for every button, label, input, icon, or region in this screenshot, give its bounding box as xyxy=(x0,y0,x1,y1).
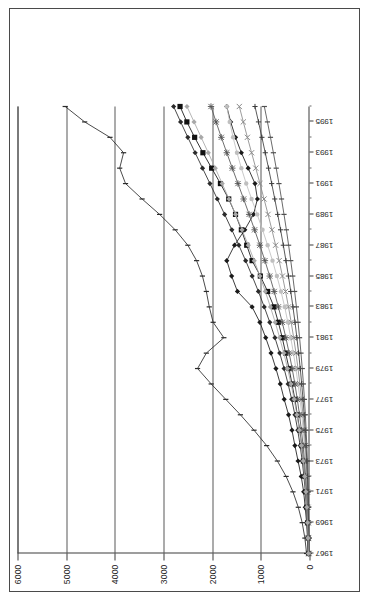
series-textiles xyxy=(224,104,310,555)
y-axis-tick xyxy=(163,553,164,560)
marker-square-filled xyxy=(200,150,205,155)
marker-dot-light xyxy=(270,258,274,262)
y-axis-label: 2000 xyxy=(207,564,217,584)
marker-dot-light xyxy=(230,135,234,139)
series-line xyxy=(211,106,309,553)
y-axis-label: 1000 xyxy=(255,564,265,584)
marker-dot-light xyxy=(260,227,264,231)
marker-plus xyxy=(285,273,290,278)
x-axis-tick xyxy=(309,120,313,121)
marker-dot-light xyxy=(244,181,248,185)
marker-diamond-filled xyxy=(243,258,248,263)
x-axis-label: 1981 xyxy=(315,333,333,342)
y-axis-tick xyxy=(66,553,67,560)
marker-plus xyxy=(269,180,274,185)
marker-plus xyxy=(280,242,285,247)
series-energy xyxy=(261,106,311,553)
x-axis-label: 1989 xyxy=(315,209,333,218)
marker-star xyxy=(240,195,246,201)
x-axis-tick xyxy=(309,429,313,430)
x-axis-tick xyxy=(309,367,313,368)
chart-figure: CONST. PROD.BASIC METALSTEXTILESWOOD PAP… xyxy=(0,0,370,601)
marker-diamond-filled xyxy=(252,180,257,185)
marker-diamond-light xyxy=(191,119,196,124)
x-axis-label: 1977 xyxy=(315,394,333,403)
marker-diamond-filled xyxy=(222,211,227,216)
marker-dot-light xyxy=(234,150,238,154)
x-axis-tick xyxy=(309,213,313,214)
x-axis-tick xyxy=(309,275,313,276)
x-axis-label: 1995 xyxy=(315,117,333,126)
x-axis-tick xyxy=(309,305,313,306)
series-line xyxy=(264,106,309,553)
x-axis-tick xyxy=(309,336,313,337)
marker-diamond-filled xyxy=(214,196,219,201)
x-axis-label: 1985 xyxy=(315,271,333,280)
x-axis-label: 1993 xyxy=(315,148,333,157)
series-line xyxy=(173,106,308,553)
marker-star xyxy=(234,180,240,186)
x-axis-label: 1991 xyxy=(315,179,333,188)
marker-dot-light xyxy=(249,196,253,200)
x-axis-label: 1967 xyxy=(315,549,333,558)
series-layer xyxy=(17,106,309,553)
marker-diamond-filled xyxy=(199,165,204,170)
y-axis-tick xyxy=(17,553,18,560)
marker-diamond-filled xyxy=(257,319,262,324)
series-mining xyxy=(252,103,311,555)
y-axis-label: 6000 xyxy=(12,564,22,584)
y-axis-label: 0 xyxy=(304,564,314,569)
series-line xyxy=(239,106,309,553)
marker-diamond-filled xyxy=(229,227,234,232)
marker-diamond-filled xyxy=(249,273,254,278)
x-axis-tick xyxy=(309,151,313,152)
x-axis-label: 1971 xyxy=(315,487,333,496)
marker-diamond-light xyxy=(198,134,203,139)
marker-plus xyxy=(265,165,270,170)
series-line xyxy=(180,106,308,553)
marker-diamond-filled xyxy=(245,165,250,170)
y-axis-label: 5000 xyxy=(61,564,71,584)
marker-dot-light xyxy=(224,104,228,108)
marker-plus xyxy=(252,103,257,108)
marker-star xyxy=(245,211,251,217)
x-axis-tick xyxy=(309,182,313,183)
y-axis-label: 4000 xyxy=(109,564,119,584)
x-axis-tick xyxy=(309,490,313,491)
y-axis-tick xyxy=(114,553,115,560)
marker-plus xyxy=(255,119,260,124)
marker-diamond-filled xyxy=(192,150,197,155)
x-axis-tick xyxy=(309,244,313,245)
marker-diamond-filled xyxy=(185,134,190,139)
marker-diamond-light xyxy=(205,150,210,155)
series-agriculture xyxy=(62,106,309,553)
marker-dot-light xyxy=(278,289,282,293)
y-axis-label: 3000 xyxy=(158,564,168,584)
series-wood-paper xyxy=(236,103,311,555)
x-axis-label: 1975 xyxy=(315,425,333,434)
marker-plus xyxy=(275,211,280,216)
marker-star xyxy=(251,226,257,232)
series-const-prod xyxy=(224,103,310,555)
marker-dot-light xyxy=(239,165,243,169)
marker-x xyxy=(236,103,241,108)
x-axis-tick xyxy=(309,398,313,399)
marker-square-filled xyxy=(192,134,197,139)
marker-diamond-filled xyxy=(171,103,176,108)
x-axis-label: 1987 xyxy=(315,240,333,249)
y-axis-tick xyxy=(260,553,261,560)
rotated-figure-wrapper: CONST. PROD.BASIC METALSTEXTILESWOOD PAP… xyxy=(0,0,370,601)
marker-square-filled xyxy=(184,119,189,124)
marker-star xyxy=(223,149,229,155)
marker-square-filled xyxy=(177,103,182,108)
marker-square-filled xyxy=(209,165,214,170)
x-axis-tick xyxy=(309,460,313,461)
marker-star xyxy=(229,164,235,170)
x-axis-label: 1983 xyxy=(315,302,333,311)
marker-diamond-light xyxy=(184,103,189,108)
marker-diamond-filled xyxy=(207,180,212,185)
x-axis-label: 1973 xyxy=(315,456,333,465)
marker-dot-light xyxy=(274,273,278,277)
series-basic-metals xyxy=(177,103,311,555)
x-axis-label: 1969 xyxy=(315,518,333,527)
